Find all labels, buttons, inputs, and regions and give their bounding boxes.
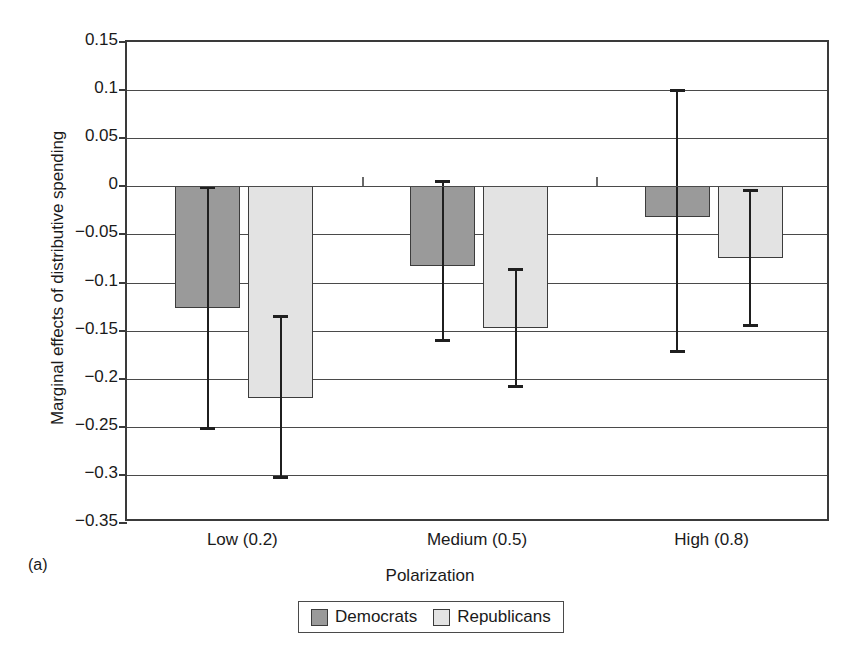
error-bar-cap-lower	[435, 339, 450, 342]
y-axis-tick-label: −0.2	[58, 367, 118, 387]
gridline	[127, 475, 827, 476]
y-axis-tickmark	[119, 378, 127, 380]
y-axis-tick-label: −0.35	[58, 511, 118, 531]
y-axis-tickmark	[119, 330, 127, 332]
error-bar-line	[676, 90, 678, 352]
zero-axis-line	[127, 186, 827, 187]
legend-item-republicans: Republicans	[433, 607, 551, 627]
error-bar-cap-upper	[670, 89, 685, 92]
error-bar-cap-lower	[200, 427, 215, 430]
error-bar-cap-lower	[743, 324, 758, 327]
y-axis-tickmark	[119, 233, 127, 235]
gridline	[127, 331, 827, 332]
y-axis-tick-label: −0.25	[58, 415, 118, 435]
error-bar-line	[749, 190, 751, 326]
y-axis-tickmark	[119, 522, 127, 524]
x-axis-minor-tick	[362, 177, 364, 186]
error-bar-cap-upper	[508, 268, 523, 271]
y-axis-tickmark	[119, 137, 127, 139]
chart-legend: DemocratsRepublicans	[298, 601, 564, 633]
legend-label: Democrats	[335, 607, 417, 627]
y-axis-tickmark	[119, 426, 127, 428]
y-axis-tick-label: −0.05	[58, 222, 118, 242]
y-axis-tick-label: −0.15	[58, 319, 118, 339]
error-bar-cap-upper	[743, 189, 758, 192]
y-axis-tickmark	[119, 89, 127, 91]
y-axis-tick-label: 0.15	[58, 30, 118, 50]
gridline	[127, 427, 827, 428]
legend-swatch-icon	[433, 609, 450, 626]
x-axis-tick-label: Medium (0.5)	[427, 530, 527, 550]
error-bar-cap-lower	[508, 385, 523, 388]
x-axis-tick-label: Low (0.2)	[207, 530, 278, 550]
y-axis-tick-label: 0.05	[58, 126, 118, 146]
x-axis-title: Polarization	[0, 566, 860, 586]
gridline	[127, 379, 827, 380]
y-axis-tick-label: −0.1	[58, 271, 118, 291]
error-bar-cap-upper	[273, 315, 288, 318]
figure-panel-a: Marginal effects of distributive spendin…	[0, 0, 860, 666]
legend-label: Republicans	[457, 607, 551, 627]
error-bar-line	[442, 181, 444, 340]
error-bar-line	[207, 187, 209, 428]
x-axis-tick-label: High (0.8)	[674, 530, 749, 550]
gridline	[127, 138, 827, 139]
y-axis-tickmark	[119, 41, 127, 43]
error-bar-line	[515, 269, 517, 386]
y-axis-tickmark	[119, 185, 127, 187]
y-axis-tick-label: 0.1	[58, 78, 118, 98]
panel-label: (a)	[28, 556, 48, 574]
plot-area	[125, 40, 829, 521]
y-axis-tick-label: 0	[58, 174, 118, 194]
legend-swatch-icon	[311, 609, 328, 626]
x-axis-minor-tick	[596, 177, 598, 186]
y-axis-tickmark	[119, 282, 127, 284]
error-bar-cap-upper	[435, 180, 450, 183]
gridline	[127, 90, 827, 91]
y-axis-tick-label: −0.3	[58, 463, 118, 483]
error-bar-cap-lower	[670, 350, 685, 353]
legend-item-democrats: Democrats	[311, 607, 417, 627]
error-bar-cap-lower	[273, 476, 288, 479]
y-axis-tickmark	[119, 474, 127, 476]
error-bar-line	[280, 316, 282, 478]
